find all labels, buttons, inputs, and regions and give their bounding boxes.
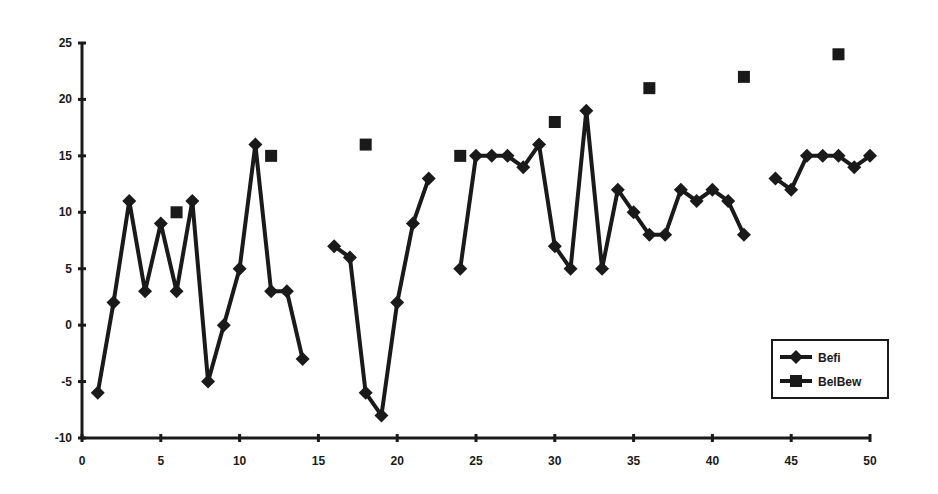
data-point-square [549,116,561,128]
data-point-square [832,48,844,60]
series-line [98,145,303,393]
x-tick-label: 15 [312,454,326,468]
data-point-square [265,150,277,162]
data-point-diamond [800,149,814,163]
data-point-diamond [485,149,499,163]
data-point-diamond [296,352,310,366]
data-point-square [171,206,183,218]
data-point-diamond [264,284,278,298]
data-point-diamond [107,296,121,310]
data-point-diamond [737,228,751,242]
line-chart: -10-5051015202505101520253035404550 Befi… [0,0,938,494]
data-point-diamond [185,194,199,208]
data-point-diamond [595,262,609,276]
data-point-diamond [658,228,672,242]
data-point-diamond [816,149,830,163]
x-tick-label: 35 [627,454,641,468]
y-tick-label: 5 [65,262,72,276]
y-tick-label: 10 [59,205,73,219]
data-point-square [738,71,750,83]
x-tick-label: 10 [233,454,247,468]
data-point-diamond [170,284,184,298]
legend-item-belbew: BelBew [780,375,862,389]
legend-box [772,340,888,398]
series-line [334,178,429,415]
series-belbew [171,48,845,218]
data-point-diamond [579,104,593,118]
square-marker-icon [790,375,802,387]
y-tick-label: -5 [61,375,72,389]
data-point-diamond [469,149,483,163]
data-point-diamond [201,375,215,389]
data-point-diamond [390,296,404,310]
x-tick-label: 30 [548,454,562,468]
x-tick-label: 20 [391,454,405,468]
data-point-diamond [422,171,436,185]
x-tick-label: 45 [785,454,799,468]
series-line [460,111,744,269]
y-tick-label: 25 [59,36,73,50]
data-point-diamond [217,318,231,332]
data-point-diamond [122,194,136,208]
data-point-square [454,150,466,162]
x-tick-label: 25 [469,454,483,468]
y-tick-label: 15 [59,149,73,163]
legend: Befi BelBew [772,340,888,398]
data-point-diamond [280,284,294,298]
plot-area [91,48,877,422]
data-point-diamond [248,138,262,152]
x-tick-label: 50 [863,454,877,468]
y-tick-label: -10 [55,431,73,445]
x-tick-label: 40 [706,454,720,468]
legend-label-belbew: BelBew [818,375,862,389]
data-point-diamond [406,217,420,231]
axes: -10-5051015202505101520253035404550 [55,36,877,468]
y-tick-label: 20 [59,92,73,106]
y-tick-label: 0 [65,318,72,332]
data-point-diamond [233,262,247,276]
data-point-diamond [138,284,152,298]
series-befi [91,104,877,423]
x-tick-label: 5 [157,454,164,468]
data-point-diamond [91,386,105,400]
data-point-diamond [154,217,168,231]
legend-label-befi: Befi [818,351,841,365]
x-tick-label: 0 [79,454,86,468]
data-point-diamond [453,262,467,276]
data-point-square [643,82,655,94]
data-point-square [360,139,372,151]
